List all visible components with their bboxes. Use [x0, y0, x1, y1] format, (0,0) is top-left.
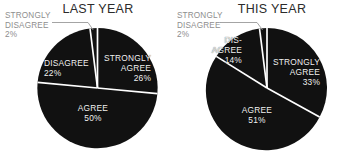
chart-panel-this-year: THIS YEAR STRONGLY DISAGREE 2%	[172, 0, 344, 165]
survey-pie-chart-figure: LAST YEAR STRONGLY DISAGREE 2	[0, 0, 344, 165]
label-strongly-agree: STRONGLY AGREE 26%	[104, 54, 151, 83]
callout-line-2: DISAGREE	[177, 21, 223, 31]
label-ag-value: 50%	[68, 114, 118, 124]
label-dis-value: 22%	[44, 69, 89, 79]
label-dis-value: 14%	[208, 56, 242, 66]
label-disagree: DISAGREE 22%	[44, 59, 89, 79]
callout-leader-line	[52, 23, 93, 31]
label-agree: AGREE 50%	[68, 104, 118, 124]
label-ag-value: 51%	[232, 116, 282, 126]
callout-line-1: STRONGLY	[177, 11, 223, 21]
callout-leader-line	[220, 23, 263, 31]
label-disagree: DIS- AGREE 14%	[208, 36, 242, 65]
label-strongly-agree: STRONGLY AGREE 33%	[273, 58, 320, 87]
callout-line-2: DISAGREE	[5, 21, 51, 31]
label-sa-value: 33%	[273, 78, 320, 88]
callout-line-1: STRONGLY	[5, 11, 51, 21]
callout-strongly-disagree: STRONGLY DISAGREE 2%	[5, 11, 51, 40]
label-agree: AGREE 51%	[232, 106, 282, 126]
callout-line-3: 2%	[5, 30, 51, 40]
label-sa-value: 26%	[104, 74, 151, 84]
chart-panel-last-year: LAST YEAR STRONGLY DISAGREE 2	[0, 0, 172, 165]
